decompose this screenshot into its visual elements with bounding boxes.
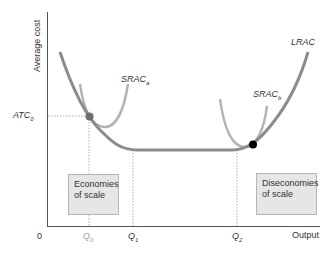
atc0-sub: 0 [30,116,33,122]
q0-label: Q0 [83,231,93,243]
srac-b-main: SRAC [253,89,278,99]
economies-line1: Economies [74,179,113,190]
atc0-main: ATC [13,110,30,120]
q0-sub: 0 [90,237,93,243]
atc0-label: ATC0 [13,110,34,122]
q1-label: Q1 [128,231,138,243]
srac-b-curve [220,99,267,147]
point-srac-b-tangent [249,141,257,149]
srac-a-main: SRAC [121,74,146,84]
diseconomies-line1: Diseconomies [262,178,311,189]
chart-canvas [0,0,333,253]
q2-sub: 2 [239,237,242,243]
q1-main: Q [128,231,135,241]
q0-main: Q [83,231,90,241]
q1-sub: 1 [135,237,138,243]
srac-a-curve [80,84,128,127]
origin-label: 0 [37,231,42,241]
y-axis-label: Average cost [32,20,42,72]
x-axis-label: Output [292,230,319,240]
srac-a-label: SRACa [121,74,149,86]
lrac-label: LRAC [291,37,315,47]
diseconomies-of-scale-box: Diseconomies of scale [256,173,317,215]
economies-of-scale-box: Economies of scale [68,174,119,215]
srac-b-label: SRACb [253,89,281,101]
srac-a-sub: a [146,80,149,86]
q2-main: Q [232,231,239,241]
q2-label: Q2 [232,231,242,243]
economies-line2: of scale [74,190,113,201]
diseconomies-line2: of scale [262,189,311,200]
point-atc0-q0 [86,113,94,121]
srac-b-sub: b [278,95,281,101]
lrac-curve [60,52,308,150]
